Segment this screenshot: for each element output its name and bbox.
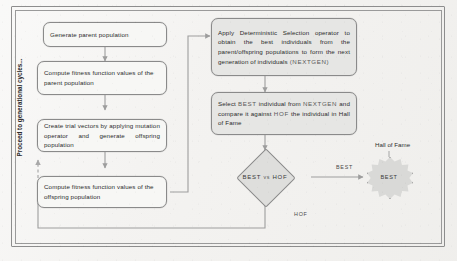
edge-label-best: BEST xyxy=(336,164,353,170)
node-text: Create trial vectors by applying mutatio… xyxy=(44,121,160,150)
node-text: Compute fitness function values of the o… xyxy=(44,182,160,201)
hall-of-fame-annotation: Hall of Fame xyxy=(375,141,410,148)
edge-label-hof: HOF xyxy=(294,211,308,217)
node-select-best-individual[interactable]: Select BEST individual from NEXTGEN and … xyxy=(211,92,357,135)
node-text: Generate parent population xyxy=(50,30,160,40)
node-apply-deterministic-selection[interactable]: Apply Deterministic Selection operator t… xyxy=(211,18,357,76)
node-compute-parent-fitness[interactable]: Compute fitness function values of the p… xyxy=(37,61,167,95)
node-text: Select BEST individual from NEXTGEN and … xyxy=(218,99,350,128)
select-part2: individual from xyxy=(257,100,303,107)
node-compute-offspring-fitness[interactable]: Compute fitness function values of the o… xyxy=(37,176,167,208)
hall-of-fame-node-label: BEST xyxy=(367,157,411,197)
select-part1: Select xyxy=(218,100,238,107)
hall-of-fame-node[interactable]: BEST xyxy=(367,157,411,197)
node-text-main: Apply Deterministic Selection operator t… xyxy=(218,29,350,65)
node-create-trial-vectors[interactable]: Create trial vectors by applying mutatio… xyxy=(37,119,167,152)
select-nextgen-token: NEXTGEN xyxy=(303,100,337,107)
node-text: Apply Deterministic Selection operator t… xyxy=(218,28,350,66)
node-text-nextgen: (NEXTGEN) xyxy=(290,58,330,65)
generational-cycles-note: Proceed to generational cycles... xyxy=(16,38,23,178)
select-hof-token: HOF xyxy=(274,110,289,117)
node-generate-parent-population[interactable]: Generate parent population xyxy=(43,22,167,47)
node-text: Compute fitness function values of the p… xyxy=(44,68,160,87)
select-best-token: BEST xyxy=(238,100,257,107)
decision-label: BEST vs HOF xyxy=(225,174,305,180)
